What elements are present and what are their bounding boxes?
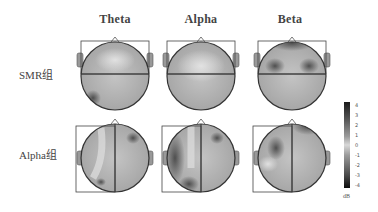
column-title-beta: Beta xyxy=(278,12,303,27)
nose-icon xyxy=(197,119,205,124)
colorbar-unit: dB xyxy=(343,193,350,199)
colorbar-tick: 2 xyxy=(355,122,358,128)
colorbar-tick: 1 xyxy=(355,132,358,138)
colorbar-tick: 0 xyxy=(355,142,358,148)
colorbar-tick: -3 xyxy=(355,172,360,178)
colorbar-tick: -2 xyxy=(355,162,360,168)
column-title-theta: Theta xyxy=(99,12,131,27)
nose-icon xyxy=(288,119,296,124)
colorbar-tick: -1 xyxy=(355,152,360,158)
topomap-smr-alpha xyxy=(161,36,241,116)
topomap-alpha-alpha xyxy=(161,118,241,198)
row-label-smr-group: SMR组 xyxy=(19,66,53,82)
topomap-smr-theta xyxy=(75,36,155,116)
topomap-alpha-beta xyxy=(252,118,332,198)
colorbar-tick: -4 xyxy=(355,182,360,188)
row-label-alpha-group: Alpha组 xyxy=(19,146,57,162)
colorbar xyxy=(344,102,350,188)
colorbar-tick: 3 xyxy=(355,112,358,118)
topomap-alpha-theta xyxy=(75,118,155,198)
column-title-alpha: Alpha xyxy=(185,12,218,27)
colorbar-tick: 4 xyxy=(355,102,358,108)
topomap-smr-beta xyxy=(252,36,332,116)
nose-icon xyxy=(111,119,119,124)
